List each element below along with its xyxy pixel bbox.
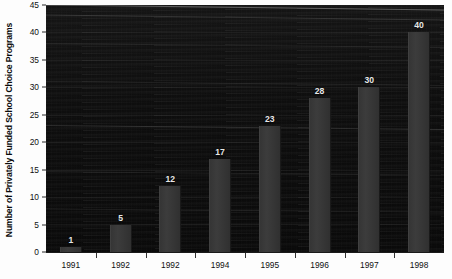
bar-value-label: 5: [118, 213, 123, 223]
bar: [159, 186, 181, 252]
y-axis-tick-label: 5: [34, 220, 39, 230]
y-axis-tick-mark: [42, 114, 46, 115]
x-axis-tick-label: 1994: [211, 260, 230, 270]
y-axis-tick-mark: [42, 224, 46, 225]
bar: [209, 159, 231, 252]
scan-artifact-streak: [46, 5, 444, 11]
scan-artifact-streak: [46, 14, 444, 20]
x-axis-tick-label: 1996: [310, 260, 329, 270]
y-axis-tick-mark: [42, 59, 46, 60]
x-axis-tick-mark: [195, 253, 196, 258]
x-axis-tick-label: 1997: [360, 260, 379, 270]
y-axis-tick-label: 30: [30, 82, 39, 92]
x-axis-tick-mark: [295, 253, 296, 258]
x-axis-tick-label: 1998: [410, 260, 429, 270]
y-axis-tick-mark: [42, 32, 46, 33]
x-axis-tick-label: 1992: [161, 260, 180, 270]
y-axis-tick-mark: [42, 197, 46, 198]
bar-value-label: 17: [215, 147, 225, 157]
bar-value-label: 40: [414, 20, 424, 30]
scan-artifact-streak: [46, 43, 444, 48]
bar-value-label: 30: [365, 75, 375, 85]
y-axis-tick-label: 15: [30, 165, 39, 175]
bar: [408, 32, 430, 252]
x-axis-tick-mark: [345, 253, 346, 258]
scan-artifact-streak: [46, 208, 444, 212]
y-axis-title: Number of Privately Funded School Choice…: [2, 0, 16, 260]
bar-chart-figure: Number of Privately Funded School Choice…: [0, 0, 452, 279]
bar-value-label: 23: [265, 114, 275, 124]
y-axis-tick-labels: 051015202530354045: [22, 0, 42, 279]
plot-area: 15121723283040: [46, 5, 444, 252]
x-axis-tick-mark: [96, 253, 97, 258]
bar: [358, 87, 380, 252]
x-axis-tick-label: 1991: [62, 260, 81, 270]
y-axis-tick-label: 40: [30, 27, 39, 37]
x-axis-tick-label: 1992: [111, 260, 130, 270]
bar-value-label: 12: [166, 174, 176, 184]
y-axis-tick-label: 25: [30, 110, 39, 120]
bar: [110, 225, 132, 252]
bar: [309, 98, 331, 252]
bar-value-label: 28: [315, 86, 325, 96]
y-axis-tick-mark: [42, 87, 46, 88]
scan-artifact-streak: [46, 125, 444, 130]
y-axis-tick-label: 35: [30, 55, 39, 65]
bar: [259, 126, 281, 252]
scan-artifact-streak: [46, 81, 444, 86]
y-axis-tick-label: 0: [34, 247, 39, 257]
y-axis-tick-label: 10: [30, 192, 39, 202]
x-axis-tick-mark: [245, 253, 246, 258]
y-axis-tick-mark: [42, 142, 46, 143]
bar-value-label: 1: [68, 235, 73, 245]
y-axis-tick-label: 45: [30, 0, 39, 10]
y-axis-tick-mark: [42, 5, 46, 6]
y-axis-tick-mark: [42, 169, 46, 170]
x-axis-tick-mark: [146, 253, 147, 258]
scan-artifact-streak: [46, 171, 444, 176]
y-axis-tick-label: 20: [30, 137, 39, 147]
x-axis-tick-label: 1995: [261, 260, 280, 270]
y-axis-tick-mark: [42, 252, 46, 253]
x-axis-tick-mark: [394, 253, 395, 258]
